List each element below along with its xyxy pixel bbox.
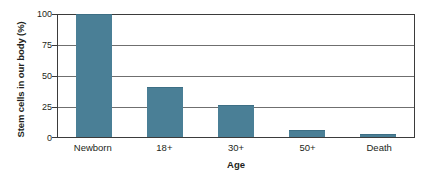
x-tick-label-30plus: 30+ [200,141,272,155]
bar-slot [343,15,414,137]
bar-chart-figure: Stem cells in our body (%) 100 75 50 25 … [0,0,430,182]
x-tick-label-50plus: 50+ [272,141,344,155]
y-tick-label: 0 [22,133,52,144]
bar-50plus[interactable] [289,130,325,137]
x-axis-tick-labels: Newborn 18+ 30+ 50+ Death [57,141,415,155]
y-tick-label: 50 [22,71,52,82]
bar-slot [200,15,271,137]
bar-death[interactable] [360,134,396,137]
bar-30plus[interactable] [218,105,254,137]
plot-area [57,14,415,138]
y-tick-label: 75 [22,40,52,51]
bar-slot [129,15,200,137]
x-tick-label-18plus: 18+ [129,141,201,155]
bar-slot [272,15,343,137]
x-tick-label-death: Death [343,141,415,155]
bar-newborn[interactable] [76,14,112,137]
y-tick-label: 100 [22,9,52,20]
x-axis-title: Age [57,159,415,170]
bar-slot [58,15,129,137]
y-tick-label: 25 [22,102,52,113]
x-tick-label-newborn: Newborn [57,141,129,155]
y-axis-tick-labels: 100 75 50 25 0 [22,14,52,138]
bar-18plus[interactable] [147,87,183,137]
bars-layer [58,15,414,137]
